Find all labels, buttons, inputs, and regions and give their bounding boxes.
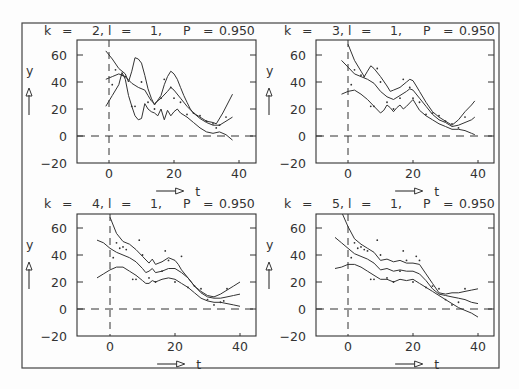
k-eq: = [302,23,312,38]
ylabel: y [26,237,34,252]
ylabel: y [266,63,274,78]
l-value: 1, [390,23,402,38]
xtick-label: 20 [166,166,182,181]
xlabel: t [434,357,439,372]
k-value: 5, [332,196,344,211]
data-point [363,76,365,78]
data-point [354,69,356,71]
panel-k2: k = 2, l = 1, P = 0.950 6040200−2002040y… [26,23,256,199]
data-point [148,277,150,279]
ytick-label: 60 [290,221,306,236]
right-arrow-icon [156,188,184,194]
ytick-label: 40 [290,75,306,90]
data-point [111,84,113,86]
data-point [425,114,427,116]
data-point [173,97,175,99]
data-point [409,87,411,89]
data-point [122,246,124,248]
xtick-label: 40 [232,339,248,354]
panel-title: k = 3, l = 1, P = 0.950 [284,23,495,38]
data-point [154,108,156,110]
ytick-label: −20 [280,329,306,344]
data-point [112,257,114,259]
data-point [393,108,395,110]
k-label: k [284,23,292,38]
data-point [131,105,133,107]
data-point [181,255,183,257]
data-point [193,112,195,114]
ytick-label: 0 [59,302,67,317]
l-eq: = [361,196,371,211]
xlabel: t [434,184,439,199]
k-label: k [284,196,292,211]
data-point [445,120,447,122]
l-value: 1, [150,196,162,211]
plot-area: 6040200−2002040yt [26,40,256,199]
data-point [132,278,134,280]
data-point [220,301,222,303]
ytick-label: 40 [290,248,306,263]
ylabel: y [266,237,274,252]
k-eq: = [62,196,72,211]
ytick-label: 20 [290,275,306,290]
data-point [116,242,118,244]
ytick-label: 0 [59,129,67,144]
data-point [445,299,447,301]
data-point [386,277,388,279]
data-point [350,257,352,259]
data-point [186,114,188,116]
plot-box [316,214,494,336]
xtick-label: 20 [405,166,421,181]
xtick-label: 20 [405,339,421,354]
data-point [134,105,136,107]
data-point [138,239,140,241]
plot-area: 6040200−2002040yt [266,40,494,199]
k-eq: = [302,196,312,211]
data-point [376,239,378,241]
k-value: 3, [332,23,344,38]
data-point [370,278,372,280]
upper-band-line [348,44,475,125]
fit-line [335,237,478,303]
data-point [354,242,356,244]
data-point [380,254,382,256]
xlabel: t [195,184,200,199]
data-point [438,115,440,117]
data-point [399,270,401,272]
l-eq: = [361,23,371,38]
p-eq: = [203,196,213,211]
ytick-label: 20 [51,275,67,290]
data-point [121,74,123,76]
data-point [425,287,427,289]
data-point [464,288,466,290]
data-point [199,115,201,117]
data-point [376,68,378,70]
data-point [161,270,163,272]
fit-line [106,74,233,125]
xlabel: t [196,357,201,372]
p-value: 0.950 [219,23,255,38]
xtick-label: 40 [470,166,486,181]
data-point [419,101,421,103]
data-point [124,76,126,78]
l-value: 1, [150,23,162,38]
p-eq: = [203,23,213,38]
data-point [438,288,440,290]
data-point [367,250,369,252]
ytick-label: 0 [298,302,306,317]
data-point [402,78,404,80]
data-point [194,285,196,287]
right-arrow-icon [395,361,423,367]
data-point [215,127,217,129]
data-point [141,81,143,83]
data-point [406,260,408,262]
data-point [373,105,375,107]
k-label: k [44,196,52,211]
lower-band-line [106,73,233,141]
data-point [200,288,202,290]
data-point [212,123,214,125]
data-point [393,281,395,283]
data-point [163,78,165,80]
ytick-label: 0 [298,129,306,144]
panel-k4: k = 4, l = 1, P = 0.950 6040200−2002040y… [26,196,256,372]
